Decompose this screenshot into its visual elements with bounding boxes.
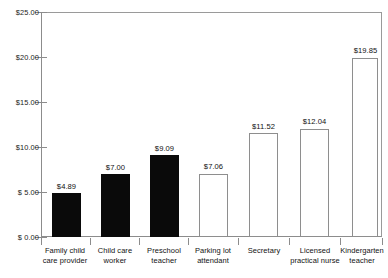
bar-value-4: $11.52	[244, 123, 283, 131]
y-axis-label-3: $10.00	[0, 144, 39, 151]
x-tickmark-0	[41, 238, 42, 245]
x-label-6-line-1: Kindergarten	[334, 246, 388, 256]
bar-value-6: $19.85	[346, 47, 385, 55]
bar-value-1: $7.00	[97, 164, 134, 172]
bar-value-5: $12.04	[295, 118, 334, 126]
bar-6	[352, 58, 378, 237]
x-tickmark-4	[238, 238, 239, 245]
x-tickmark-1	[90, 238, 91, 245]
x-tickmark-7	[382, 238, 383, 245]
y-axis-label-2: $15.00	[0, 99, 39, 106]
y-axis-label-5: $ 0.00	[0, 234, 39, 241]
y-axis-label-4: $ 5.00	[0, 189, 39, 196]
x-label-3-line-2: attendant	[183, 256, 243, 266]
y-axis-label-0: $25.00	[0, 9, 39, 16]
bar-2	[150, 155, 179, 237]
bar-3	[199, 174, 228, 238]
x-tickmark-5	[289, 238, 290, 245]
bar-value-2: $9.09	[146, 145, 183, 153]
x-label-6: Kindergarten teacher	[334, 246, 388, 265]
bar-chart: $25.00 $20.00 $15.00 $10.00 $ 5.00 $ 0.0…	[0, 0, 388, 278]
bar-1	[101, 174, 130, 237]
y-axis-label-1: $20.00	[0, 54, 39, 61]
bar-0	[52, 193, 81, 237]
x-tickmark-2	[139, 238, 140, 245]
bar-4	[249, 133, 278, 237]
bar-value-0: $4.89	[48, 183, 85, 191]
x-label-6-line-2: teacher	[334, 256, 388, 266]
x-tickmark-3	[188, 238, 189, 245]
bar-value-3: $7.06	[195, 163, 232, 171]
bar-5	[300, 129, 329, 237]
x-tickmark-6	[340, 238, 341, 245]
